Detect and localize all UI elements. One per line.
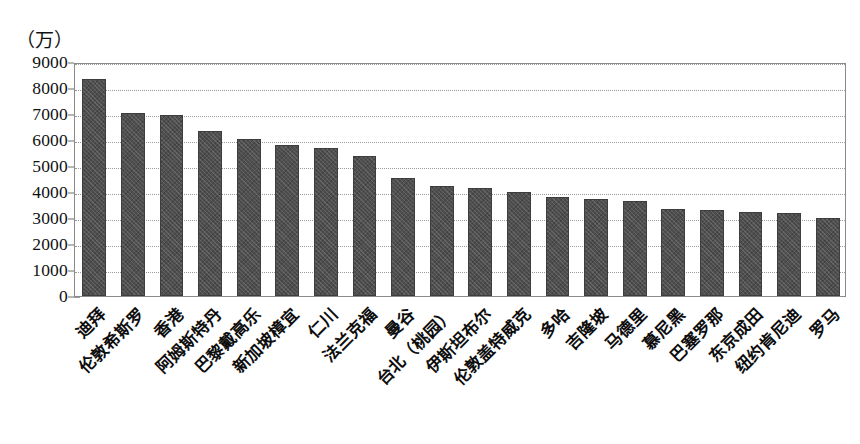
y-tick-label: 9000 xyxy=(0,52,68,73)
bar xyxy=(623,201,647,296)
y-tick-label: 1000 xyxy=(0,260,68,281)
bar xyxy=(237,139,261,296)
bar xyxy=(160,115,184,296)
bar-chart-figure: （万） 900080007000600050004000300020001000… xyxy=(0,0,860,444)
bar xyxy=(275,145,299,296)
bar xyxy=(468,188,492,296)
bar xyxy=(700,210,724,296)
x-tick-label: 罗马 xyxy=(803,302,844,343)
y-tick-label: 8000 xyxy=(0,78,68,99)
x-tick-label: 马德里 xyxy=(598,302,650,354)
y-tick-label: 2000 xyxy=(0,234,68,255)
y-axis: 9000800070006000500040003000200010000 xyxy=(0,63,68,297)
bar xyxy=(314,148,338,296)
bar xyxy=(121,113,145,296)
y-tick-label: 6000 xyxy=(0,130,68,151)
figure-caption xyxy=(0,434,860,443)
bar xyxy=(507,192,531,296)
y-tick-label: 7000 xyxy=(0,104,68,125)
bar xyxy=(353,156,377,296)
x-axis: 迪拜伦敦希斯罗香港阿姆斯特丹巴黎戴高乐新加坡樟宜仁川法兰克福曼谷台北（桃园）伊斯… xyxy=(74,298,846,444)
y-tick-label: 4000 xyxy=(0,182,68,203)
bar xyxy=(546,197,570,296)
bar xyxy=(198,131,222,296)
bars-layer xyxy=(75,64,845,296)
bar xyxy=(391,178,415,296)
bar xyxy=(816,218,840,296)
y-tick-label: 0 xyxy=(0,286,68,307)
plot-area xyxy=(74,63,846,297)
bar xyxy=(82,79,106,296)
bar xyxy=(584,199,608,297)
y-axis-unit-label: （万） xyxy=(16,25,73,52)
y-tick-label: 3000 xyxy=(0,208,68,229)
bar xyxy=(777,213,801,296)
bar xyxy=(661,209,685,296)
bar xyxy=(430,186,454,297)
x-tick-label: 吉隆坡 xyxy=(560,302,612,354)
y-tick-label: 5000 xyxy=(0,156,68,177)
bar xyxy=(739,212,763,297)
